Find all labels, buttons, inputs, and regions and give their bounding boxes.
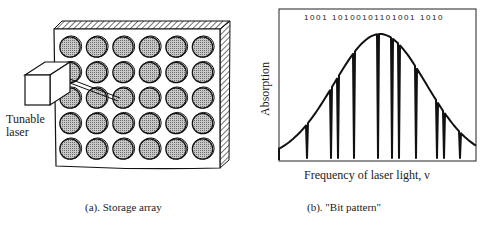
- storage-cell: [139, 139, 159, 159]
- storage-cell: [166, 62, 186, 82]
- array-top-edge: [54, 21, 230, 29]
- storage-cell: [166, 113, 186, 133]
- y-axis-label: Absorption: [258, 62, 273, 116]
- storage-cell: [113, 62, 133, 82]
- storage-cell: [166, 37, 186, 57]
- caption-bit-pattern: (b). "Bit pattern": [307, 201, 381, 213]
- bit-pattern-panel: 1001 10100101101001 1010 Absorption Freq…: [245, 0, 485, 195]
- storage-cell: [86, 139, 106, 159]
- storage-cell: [86, 37, 106, 57]
- storage-cell: [166, 139, 186, 159]
- storage-cell: [139, 62, 159, 82]
- storage-cell: [192, 62, 212, 82]
- absorption-spectrum-chart: [245, 0, 485, 195]
- storage-cell: [86, 88, 106, 108]
- storage-cell: [139, 88, 159, 108]
- storage-cell: [113, 88, 133, 108]
- storage-cell: [192, 113, 212, 133]
- storage-cell: [60, 37, 80, 57]
- storage-cell: [192, 139, 212, 159]
- storage-cell: [113, 139, 133, 159]
- storage-cell: [139, 113, 159, 133]
- storage-array-drawing: [0, 0, 245, 195]
- bit-pattern-label: 1001 10100101101001 1010: [304, 13, 444, 22]
- storage-cell: [86, 62, 106, 82]
- absorption-curve: [279, 34, 476, 160]
- laser-label: Tunable laser: [6, 113, 45, 139]
- storage-cell: [166, 88, 186, 108]
- storage-cell: [113, 37, 133, 57]
- storage-cell: [192, 88, 212, 108]
- caption-storage-array: (a). Storage array: [85, 201, 162, 213]
- storage-cell: [139, 37, 159, 57]
- x-axis-label: Frequency of laser light, ν: [304, 168, 430, 183]
- storage-cell: [60, 113, 80, 133]
- storage-cell: [113, 113, 133, 133]
- storage-array-panel: Tunable laser: [0, 0, 245, 195]
- storage-cell: [60, 139, 80, 159]
- storage-cell: [86, 113, 106, 133]
- array-right-edge: [220, 21, 230, 168]
- laser-label-line2: laser: [6, 126, 45, 139]
- storage-cell: [192, 37, 212, 57]
